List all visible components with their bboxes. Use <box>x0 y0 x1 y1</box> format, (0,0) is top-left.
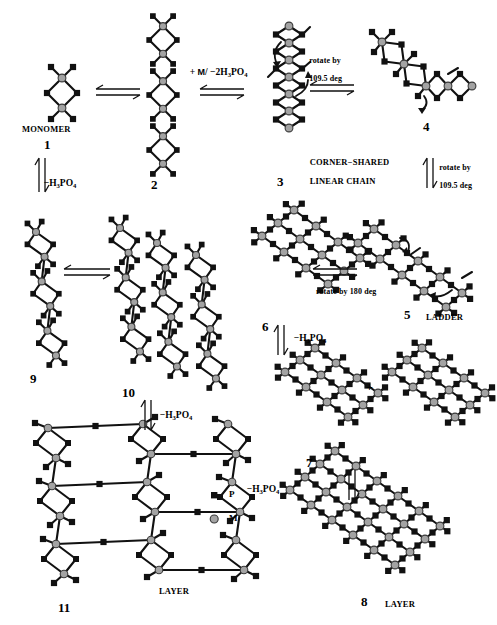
metal-node <box>52 540 60 548</box>
metal-node <box>334 238 342 246</box>
metal-node <box>436 522 444 530</box>
phosphorus-node <box>453 381 459 387</box>
phosphorus-node <box>402 487 408 493</box>
metal-node <box>173 363 180 370</box>
phosphorus-node <box>382 364 388 370</box>
phosphorus-node <box>36 319 42 325</box>
phosphorus-node <box>201 336 207 342</box>
f78-pre: −H <box>247 484 260 494</box>
phosphorus-node <box>183 371 189 377</box>
metal-node <box>343 503 351 511</box>
phosphorus-node <box>447 354 453 360</box>
metal-node <box>400 520 408 528</box>
phosphorus-node <box>146 356 152 362</box>
reaction-arrow-6-to-7 <box>274 325 288 355</box>
rotate-line-1: rotate by <box>309 56 341 65</box>
metal-node <box>60 570 68 578</box>
phosphorus-node <box>140 287 146 293</box>
phosphorus-node <box>330 482 336 488</box>
metal-node <box>364 518 372 526</box>
phosphorus-node <box>381 554 387 560</box>
metal-node <box>281 368 289 376</box>
metal-node <box>358 490 366 498</box>
reaction-label-dehydration-6-7: −H3PO4 <box>289 322 326 344</box>
phosphorus-node <box>307 364 313 370</box>
phosphorus-node <box>47 522 53 528</box>
phosphorus-node <box>365 249 371 255</box>
phosphorus-node <box>426 515 432 521</box>
phosphorus-node <box>378 219 384 225</box>
phosphorus-node <box>414 364 420 370</box>
reaction-arrow-1-to-2 <box>96 85 140 99</box>
structure-number-1: 1 <box>44 138 51 153</box>
phosphorus-node <box>448 282 454 288</box>
metal-node <box>323 398 331 406</box>
phosphorus-node <box>378 540 384 546</box>
metal-node <box>356 254 364 262</box>
metal-node <box>414 257 422 265</box>
metal-node <box>481 389 489 397</box>
phosphorus-node <box>41 313 47 319</box>
phosphorus-node <box>196 342 202 348</box>
phosphorus-node <box>459 408 465 414</box>
metal-node <box>285 73 293 81</box>
phosphorus-node <box>283 213 289 219</box>
phosphorus-node <box>489 395 495 401</box>
phosphorus-node <box>222 383 228 389</box>
phosphorus-node <box>369 498 375 504</box>
rotate-line-2: 109.5 deg <box>309 74 342 83</box>
phosphorus-node <box>357 525 363 531</box>
metal-node <box>439 359 447 367</box>
metal-node <box>204 350 211 357</box>
phosphorus-node <box>450 367 456 373</box>
phosphorus-node <box>273 82 279 88</box>
metal-node <box>296 235 304 243</box>
phosphorus-node <box>62 360 68 366</box>
label-layer-11: LAYER <box>159 587 189 597</box>
phosphorus-node <box>185 244 191 250</box>
phosphorus-node <box>40 536 46 542</box>
phosphorus-node <box>114 287 120 293</box>
phosphorus-node <box>407 265 413 271</box>
metal-node <box>159 289 166 296</box>
metal-node <box>192 251 199 258</box>
metal-node <box>420 287 428 295</box>
phosphorus-node <box>474 396 480 402</box>
phosphorus-node <box>444 517 450 523</box>
phosphorus-node <box>43 464 49 470</box>
phosphorus-node <box>267 214 273 220</box>
phosphorus-node <box>338 420 344 426</box>
phosphorus-node <box>216 334 222 340</box>
phosphorus-node <box>290 352 296 358</box>
phosphorus-node <box>114 266 120 272</box>
phosphorus-node <box>39 219 45 225</box>
metal-node <box>155 566 163 574</box>
phosphorus-node <box>474 407 480 413</box>
phosphorus-node <box>177 302 183 308</box>
phosphorus-node <box>174 92 180 98</box>
phosphorus-node <box>157 351 163 357</box>
phosphorus-node <box>403 390 409 396</box>
phosphorus-node <box>30 291 36 297</box>
phosphorus-node <box>171 272 177 278</box>
rotation-arrow-head <box>418 108 426 114</box>
phosphorus-node <box>393 71 399 77</box>
phosphorus-node <box>371 49 377 55</box>
phosphorus-node <box>352 408 358 414</box>
phosphorus-node <box>170 116 176 122</box>
phosphorus-node <box>100 539 106 545</box>
phosphorus-node <box>363 470 369 476</box>
phosphorus-node <box>150 171 156 177</box>
structure-number-3: 3 <box>277 175 284 190</box>
phosphorus-node <box>468 369 474 375</box>
metal-node <box>280 248 288 256</box>
phosphorus-node <box>190 314 196 320</box>
phosphorus-node <box>160 530 166 536</box>
phosphorus-node <box>396 541 402 547</box>
metal-node <box>52 454 60 462</box>
phosphorus-node <box>151 302 157 308</box>
phosphorus-node <box>295 271 301 277</box>
phosphorus-node <box>35 263 41 269</box>
f1011-s4: 4 <box>189 414 192 421</box>
metal-node <box>159 23 166 30</box>
